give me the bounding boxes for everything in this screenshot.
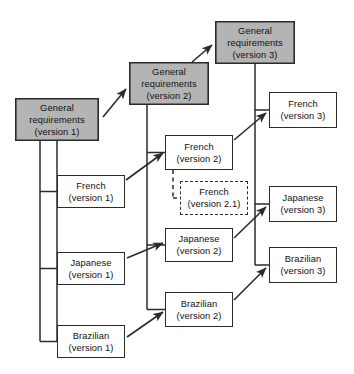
japanese-version-3[interactable]: Japanese (version 3) [269, 186, 337, 222]
node-line-2: requirements [141, 78, 196, 90]
node-line-1: French [76, 180, 106, 192]
node-line-1: General [238, 25, 272, 37]
node-line-1: Japanese [70, 257, 111, 269]
node-line-2: (version 3) [280, 265, 325, 277]
brazilian-version-1[interactable]: Brazilian (version 1) [57, 325, 125, 358]
arrow-brazilian-v2-to-brazilian-v3 [234, 268, 266, 300]
node-line-2: (version 2) [176, 153, 221, 165]
arrow-general-v2-to-general-v3 [192, 45, 212, 62]
node-line-1: Brazilian [73, 330, 110, 342]
french-version-2-1[interactable]: French (version 2.1) [180, 181, 248, 215]
edge-french-v2-to-french-v2-1-dashed [173, 170, 180, 198]
arrow-french-v2-to-french-v3 [234, 113, 266, 140]
arrow-general-v1-to-general-v2 [103, 89, 126, 117]
edge-general-v1-trunk [40, 141, 58, 342]
node-line-2: (version 3) [280, 110, 325, 122]
node-line-2: (version 1) [68, 269, 113, 281]
node-line-1: French [184, 141, 214, 153]
node-line-3: (version 2) [146, 90, 191, 102]
node-line-2: (version 2.1) [188, 198, 241, 210]
node-line-3: (version 3) [232, 49, 277, 61]
general-requirements-version-1[interactable]: General requirements (version 1) [15, 98, 99, 141]
node-line-2: (version 1) [68, 342, 113, 354]
node-line-1: French [199, 186, 229, 198]
node-line-2: (version 3) [280, 204, 325, 216]
node-line-1: Japanese [178, 233, 219, 245]
general-requirements-version-2[interactable]: General requirements (version 2) [129, 62, 209, 105]
node-line-1: General [152, 66, 186, 78]
general-requirements-version-3[interactable]: General requirements (version 3) [215, 21, 295, 64]
node-line-2: requirements [227, 37, 282, 49]
brazilian-version-2[interactable]: Brazilian (version 2) [165, 292, 233, 327]
french-version-2[interactable]: French (version 2) [165, 135, 233, 170]
french-version-1[interactable]: French (version 1) [57, 175, 125, 208]
arrow-japanese-v1-to-japanese-v2 [127, 243, 163, 258]
node-line-1: General [40, 102, 74, 114]
brazilian-version-3[interactable]: Brazilian (version 3) [269, 247, 337, 283]
node-line-3: (version 1) [34, 126, 79, 138]
node-line-2: (version 2) [176, 310, 221, 322]
node-line-1: Brazilian [285, 253, 322, 265]
french-version-3[interactable]: French (version 3) [269, 92, 337, 128]
japanese-version-1[interactable]: Japanese (version 1) [57, 252, 125, 285]
node-line-2: requirements [29, 114, 84, 126]
arrow-french-v1-to-french-v2 [126, 153, 163, 180]
version-branching-diagram: General requirements (version 1) General… [0, 0, 354, 374]
arrow-brazilian-v1-to-brazilian-v2 [127, 312, 163, 337]
node-line-2: (version 1) [68, 192, 113, 204]
node-line-1: Japanese [282, 192, 323, 204]
edge-general-v2-trunk [147, 105, 165, 310]
japanese-version-2[interactable]: Japanese (version 2) [165, 228, 233, 262]
node-line-1: Brazilian [181, 298, 218, 310]
node-line-1: French [288, 98, 318, 110]
edge-general-v3-trunk [255, 64, 269, 265]
node-line-2: (version 2) [176, 245, 221, 257]
